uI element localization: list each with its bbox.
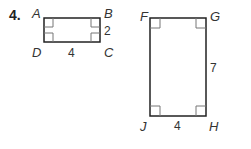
right-angle-markers <box>150 18 206 116</box>
vertex-g: G <box>210 9 220 24</box>
vertex-b: B <box>104 6 113 21</box>
side-jh-length: 4 <box>174 119 181 133</box>
vertex-c: C <box>104 45 114 60</box>
rectangles-figure: A B C D 2 4 F G H J 7 4 <box>0 0 251 149</box>
right-angle-markers <box>44 18 100 42</box>
vertex-h: H <box>209 119 219 134</box>
rectangle-abcd: A B C D 2 4 <box>31 6 114 60</box>
vertex-j: J <box>139 119 147 134</box>
side-gh-length: 7 <box>210 61 217 75</box>
side-dc-length: 4 <box>68 46 75 60</box>
side-bc-length: 2 <box>104 24 111 38</box>
vertex-f: F <box>140 9 149 24</box>
vertex-a: A <box>31 6 41 21</box>
vertex-d: D <box>32 45 41 60</box>
rectangle-fghj: F G H J 7 4 <box>139 9 220 134</box>
